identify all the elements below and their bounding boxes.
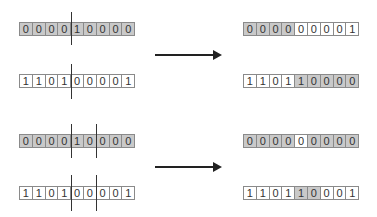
bit-cell: 1	[58, 187, 71, 199]
bit-cell: 0	[97, 75, 110, 87]
bit-cell: 1	[20, 187, 33, 199]
bit-cell: 0	[110, 23, 123, 35]
bit-cell: 0	[321, 187, 334, 199]
bit-cell: 1	[257, 187, 270, 199]
bit-cell: 0	[58, 23, 71, 35]
bit-cell: 0	[334, 75, 347, 87]
bit-cell: 1	[33, 75, 46, 87]
bit-cell: 0	[20, 23, 33, 35]
cut-line	[71, 124, 72, 158]
child-b-register-top: 110110000	[243, 74, 359, 88]
parent-a-register-top: 000010000	[19, 22, 135, 36]
bit-cell: 0	[270, 187, 283, 199]
bit-cell: 0	[308, 187, 321, 199]
bit-cell: 0	[334, 187, 347, 199]
bit-cell: 0	[97, 135, 110, 147]
bit-cell: 1	[33, 187, 46, 199]
bit-cell: 0	[110, 187, 123, 199]
bit-cell: 0	[282, 23, 295, 35]
bit-cell: 0	[346, 135, 359, 147]
bit-cell: 0	[46, 187, 59, 199]
bit-cell: 0	[71, 75, 84, 87]
bit-cell: 0	[46, 135, 59, 147]
bit-cell: 0	[97, 23, 110, 35]
bit-cell: 0	[110, 75, 123, 87]
cut-line	[71, 175, 72, 211]
cut-line	[71, 12, 72, 45]
bit-cell: 1	[346, 23, 359, 35]
cut-line	[96, 124, 97, 158]
bit-cell: 0	[84, 135, 97, 147]
bit-cell: 1	[282, 75, 295, 87]
bit-cell: 0	[321, 135, 334, 147]
bit-cell: 0	[270, 23, 283, 35]
bit-cell: 0	[122, 23, 135, 35]
bit-cell: 0	[270, 135, 283, 147]
child-b-register-bottom: 110110001	[243, 186, 359, 200]
bit-cell: 0	[244, 135, 257, 147]
bit-cell: 0	[346, 75, 359, 87]
bit-cell: 1	[257, 75, 270, 87]
bit-cell: 0	[110, 135, 123, 147]
bit-cell: 1	[244, 75, 257, 87]
cut-line	[71, 64, 72, 99]
bit-cell: 0	[97, 187, 110, 199]
bit-cell: 0	[308, 75, 321, 87]
bit-cell: 0	[257, 23, 270, 35]
bit-cell: 0	[308, 135, 321, 147]
bit-cell: 0	[295, 135, 308, 147]
parent-b-register-top: 110100001	[19, 74, 135, 88]
bit-cell: 0	[33, 23, 46, 35]
parent-b-register-bottom: 110100001	[19, 186, 135, 200]
bit-cell: 0	[321, 23, 334, 35]
child-a-register-bottom: 000000000	[243, 134, 359, 148]
bit-cell: 1	[58, 75, 71, 87]
bit-cell: 0	[84, 23, 97, 35]
bit-cell: 0	[334, 23, 347, 35]
bit-cell: 0	[295, 23, 308, 35]
bit-cell: 0	[270, 75, 283, 87]
bit-cell: 1	[122, 187, 135, 199]
bit-cell: 1	[295, 187, 308, 199]
bit-cell: 1	[20, 75, 33, 87]
bit-cell: 0	[244, 23, 257, 35]
bit-cell: 0	[84, 75, 97, 87]
bit-cell: 1	[122, 75, 135, 87]
arrow-right-icon	[155, 54, 220, 56]
bit-cell: 1	[71, 23, 84, 35]
bit-cell: 1	[244, 187, 257, 199]
bit-cell: 0	[321, 75, 334, 87]
bit-cell: 1	[71, 135, 84, 147]
parent-a-register-bottom: 000010000	[19, 134, 135, 148]
bit-cell: 0	[282, 135, 295, 147]
bit-cell: 0	[46, 23, 59, 35]
bit-cell: 1	[346, 187, 359, 199]
bit-cell: 0	[33, 135, 46, 147]
bit-cell: 0	[334, 135, 347, 147]
bit-cell: 0	[308, 23, 321, 35]
bit-cell: 0	[58, 135, 71, 147]
bit-cell: 0	[257, 135, 270, 147]
bit-cell: 0	[46, 75, 59, 87]
arrow-right-icon	[155, 166, 220, 168]
bit-cell: 0	[84, 187, 97, 199]
bit-cell: 1	[295, 75, 308, 87]
bit-cell: 1	[282, 187, 295, 199]
bit-cell: 0	[122, 135, 135, 147]
cut-line	[96, 175, 97, 211]
bit-cell: 0	[71, 187, 84, 199]
bit-cell: 0	[20, 135, 33, 147]
child-a-register-top: 000000001	[243, 22, 359, 36]
